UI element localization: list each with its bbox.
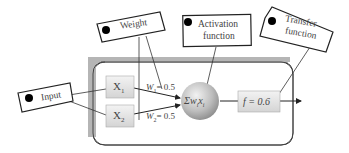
x1-label: X1 [113, 81, 124, 97]
sum-label: Σwixi [184, 95, 204, 111]
w1-label: W1= 0.5 [146, 82, 175, 97]
w2-label: W2= 0.5 [146, 111, 175, 126]
transfer-label: f = 0.6 [243, 96, 270, 107]
activation-tag-label-1: Activation [198, 19, 238, 30]
x2-label: X2 [113, 110, 124, 126]
activation-tag-label-2: function [203, 31, 235, 42]
